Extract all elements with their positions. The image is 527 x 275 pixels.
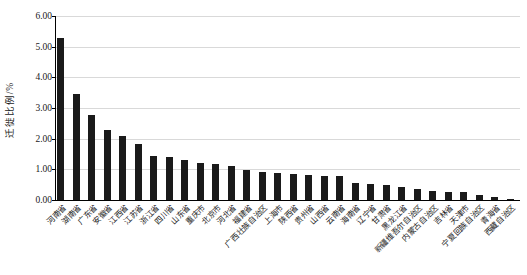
y-axis-tick-label: 2.00 bbox=[12, 134, 52, 144]
bar-河南省 bbox=[57, 38, 64, 200]
bar-吉林省 bbox=[445, 192, 452, 200]
bar-广东省 bbox=[88, 115, 95, 200]
bar-福建省 bbox=[243, 170, 250, 200]
bar-山东省 bbox=[181, 160, 188, 200]
y-axis-tick-label: 4.00 bbox=[12, 72, 52, 82]
migration-ratio-bar-chart: 迁徙比例/% 0.001.002.003.004.005.006.00 河南省湖… bbox=[0, 0, 527, 275]
gridline bbox=[56, 77, 520, 78]
bar-天津市 bbox=[460, 192, 467, 200]
bar-上海市 bbox=[274, 173, 281, 200]
bar-青海省 bbox=[491, 197, 498, 200]
bar-浙江省 bbox=[150, 156, 157, 200]
bar-河北省 bbox=[228, 166, 235, 200]
bar-江苏省 bbox=[135, 144, 142, 200]
bar-湖南省 bbox=[73, 94, 80, 200]
bar-山西省 bbox=[321, 176, 328, 200]
y-axis-tick-label: 3.00 bbox=[12, 103, 52, 113]
bar-四川省 bbox=[166, 157, 173, 200]
gridline bbox=[56, 47, 520, 48]
bar-江西省 bbox=[119, 136, 126, 200]
bar-云南省 bbox=[336, 176, 343, 200]
bar-重庆市 bbox=[197, 163, 204, 200]
bar-海南省 bbox=[352, 183, 359, 200]
bar-陕西省 bbox=[290, 174, 297, 200]
bar-辽宁省 bbox=[367, 184, 374, 200]
bar-宁夏回族自治区 bbox=[476, 195, 483, 200]
y-axis-tick-label: 1.00 bbox=[12, 164, 52, 174]
bar-安徽省 bbox=[104, 130, 111, 200]
bar-贵州省 bbox=[305, 175, 312, 200]
bar-内蒙古自治区 bbox=[429, 191, 436, 200]
plot-area bbox=[55, 16, 520, 201]
bar-广西壮族自治区 bbox=[259, 172, 266, 200]
bar-新疆维吾尔自治区 bbox=[414, 189, 421, 200]
y-axis-tick-label: 6.00 bbox=[12, 11, 52, 21]
bar-西藏自治区 bbox=[507, 199, 514, 200]
bar-甘肃省 bbox=[383, 185, 390, 200]
bar-黑龙江省 bbox=[398, 187, 405, 200]
y-axis-tick-label: 0.00 bbox=[12, 195, 52, 205]
gridline bbox=[56, 16, 520, 17]
gridline bbox=[56, 108, 520, 109]
y-axis-tick-label: 5.00 bbox=[12, 42, 52, 52]
bar-北京市 bbox=[212, 164, 219, 200]
